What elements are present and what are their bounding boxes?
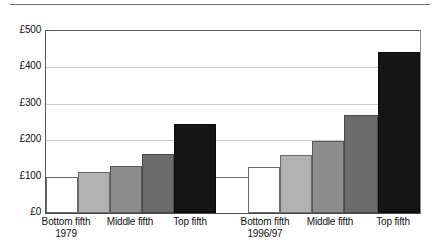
x-label-main: Bottom fifth (42, 216, 91, 227)
x-label-main: Top fifth (173, 216, 207, 227)
plot-area (45, 30, 421, 214)
bar-1996-97-second-fifth (280, 155, 312, 213)
y-axis-tick-labels: £500 £400 £300 £200 £100 £0 (0, 30, 41, 212)
bar-1979-middle-fifth (110, 166, 142, 213)
bar-1996-97-bottom-fifth (248, 167, 280, 213)
header-divider (10, 4, 430, 5)
x-label-main: Middle fifth (107, 216, 154, 227)
x-label-sub: 1996/97 (222, 228, 308, 240)
x-label-top-fifth-1979: Top fifth (155, 216, 225, 228)
x-label-top-fifth-1996-97: Top fifth (358, 216, 428, 228)
bar-1979-second-fifth (78, 172, 110, 213)
x-label-middle-fifth-1996-97: Middle fifth (292, 216, 368, 228)
bar-1996-97-top-fifth (378, 52, 420, 213)
bar-1996-97-middle-fifth (312, 141, 344, 213)
x-label-main: Bottom fifth (241, 216, 290, 227)
y-tick-label: £400 (0, 61, 41, 71)
bar-1979-top-fifth (174, 124, 216, 213)
bar-1979-fourth-fifth (142, 154, 174, 213)
bar-1979-bottom-fifth (46, 177, 78, 213)
y-tick-label: £200 (0, 134, 41, 144)
y-tick-label: £300 (0, 98, 41, 108)
x-label-main: Top fifth (376, 216, 410, 227)
chart-figure: £500 £400 £300 £200 £100 £0 (0, 0, 436, 250)
x-axis-labels: Bottom fifth 1979 Middle fifth Top fifth… (0, 216, 436, 250)
y-tick-label: £500 (0, 25, 41, 35)
x-label-main: Middle fifth (307, 216, 354, 227)
y-tick-label: £100 (0, 171, 41, 181)
x-label-sub: 1979 (23, 228, 109, 240)
bar-series (46, 31, 420, 213)
bar-1996-97-fourth-fifth (344, 115, 378, 213)
